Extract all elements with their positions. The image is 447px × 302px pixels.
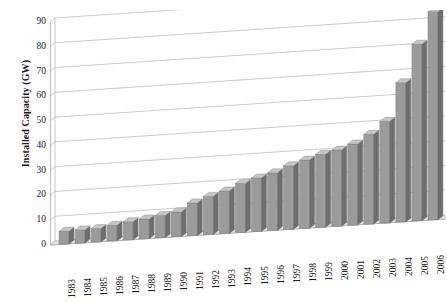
bar — [412, 40, 427, 221]
x-tick-label: 1988 — [148, 274, 158, 302]
bar — [428, 10, 443, 220]
bar — [59, 227, 74, 244]
bar — [203, 192, 218, 234]
x-tick-label: 2001 — [357, 260, 367, 294]
bar — [107, 221, 122, 241]
bar — [139, 215, 154, 239]
x-tick-label: 1997 — [293, 264, 303, 298]
y-tick-label: 40 — [24, 141, 46, 151]
bar — [268, 169, 283, 230]
bars — [59, 10, 443, 244]
bar — [332, 146, 347, 226]
bar — [75, 226, 90, 243]
x-tick-label: 2005 — [421, 256, 431, 290]
y-tick-label: 80 — [24, 42, 46, 52]
bar — [252, 174, 267, 232]
x-tick-label: 1992 — [212, 270, 222, 302]
bar — [364, 130, 379, 224]
x-tick-label: 2000 — [341, 261, 351, 295]
bar — [91, 225, 106, 242]
y-tick-label: 10 — [24, 215, 46, 225]
bar — [396, 79, 411, 222]
x-tick-label: 1990 — [180, 272, 190, 302]
y-tick-label: 70 — [24, 67, 46, 77]
x-tick-label: 1989 — [164, 273, 174, 302]
x-tick-label: 2006 — [437, 255, 447, 289]
bar — [219, 187, 234, 234]
x-tick-label: 1994 — [244, 267, 254, 301]
bar — [316, 150, 331, 227]
x-tick-label: 1998 — [309, 263, 319, 297]
x-tick-label: 1991 — [196, 271, 206, 302]
x-tick-label: 1996 — [277, 265, 287, 299]
x-tick-label: 1995 — [261, 266, 271, 300]
bar — [236, 179, 251, 232]
bar — [123, 218, 138, 240]
y-tick-label: 50 — [24, 116, 46, 126]
x-tick-label: 1984 — [84, 278, 94, 302]
bar — [187, 199, 202, 236]
y-tick-label: 0 — [24, 240, 46, 250]
bar — [300, 156, 315, 228]
x-tick-label: 2002 — [373, 259, 383, 293]
x-tick-label: 2004 — [405, 257, 415, 291]
bar — [348, 140, 363, 225]
y-tick-label: 60 — [24, 91, 46, 101]
plot-svg — [50, 10, 447, 250]
x-tick-label: 1987 — [132, 275, 142, 302]
bar — [155, 211, 170, 237]
x-axis-tick-labels: 1983198419851986198719881989199019911992… — [50, 246, 447, 290]
x-tick-label: 1986 — [116, 276, 126, 302]
bar — [380, 117, 395, 223]
y-tick-label: 20 — [24, 190, 46, 200]
x-tick-label: 1999 — [325, 262, 335, 296]
y-axis-tick-labels: 9080706050403020100 — [20, 0, 46, 290]
x-tick-label: 1993 — [228, 269, 238, 302]
x-tick-label: 2003 — [389, 258, 399, 292]
y-tick-label: 30 — [24, 166, 46, 176]
x-tick-label: 1983 — [68, 279, 78, 302]
bar — [171, 208, 186, 237]
bar — [284, 162, 299, 229]
plot-area — [50, 10, 447, 250]
x-tick-label: 1985 — [100, 277, 110, 302]
y-tick-label: 90 — [24, 17, 46, 27]
